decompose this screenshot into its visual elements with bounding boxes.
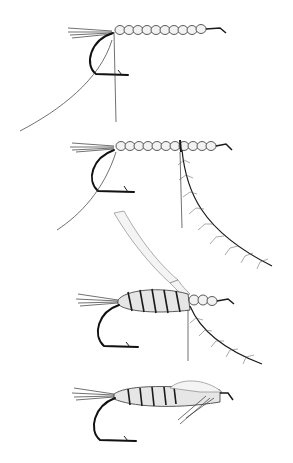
stage-2-fly — [57, 140, 272, 283]
fly-tying-illustration — [0, 0, 293, 463]
stage-3-fly — [76, 280, 262, 364]
stage-1-fly — [20, 25, 226, 132]
stage-4-fly — [72, 381, 233, 441]
